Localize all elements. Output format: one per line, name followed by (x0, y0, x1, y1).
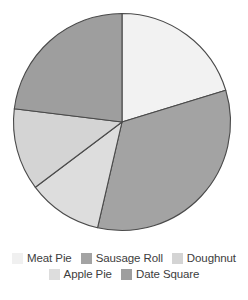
legend-item-doughnut[interactable]: Doughnut (172, 252, 236, 265)
pie-slices-group (14, 13, 231, 230)
legend-swatch-sausage-roll (81, 253, 92, 264)
legend-label-date-square: Date Square (136, 268, 199, 281)
legend-swatch-meat-pie (12, 253, 23, 264)
legend-swatch-apple-pie (49, 269, 60, 280)
legend-label-doughnut: Doughnut (187, 252, 236, 265)
pie-svg (0, 0, 248, 248)
legend-item-sausage-roll[interactable]: Sausage Roll (81, 252, 163, 265)
legend-label-sausage-roll: Sausage Roll (96, 252, 163, 265)
pie-plot-area (0, 0, 248, 248)
pie-slice-date-square[interactable] (14, 14, 122, 123)
pie-chart-figure: Meat PieSausage RollDoughnutApple PieDat… (0, 0, 248, 300)
chart-legend: Meat PieSausage RollDoughnutApple PieDat… (0, 252, 248, 281)
legend-row: Meat PieSausage RollDoughnut (12, 252, 236, 265)
legend-label-apple-pie: Apple Pie (64, 268, 112, 281)
legend-label-meat-pie: Meat Pie (27, 252, 72, 265)
legend-item-date-square[interactable]: Date Square (121, 268, 199, 281)
legend-swatch-doughnut (172, 253, 183, 264)
legend-item-meat-pie[interactable]: Meat Pie (12, 252, 72, 265)
legend-swatch-date-square (121, 269, 132, 280)
legend-row: Apple PieDate Square (49, 268, 200, 281)
legend-item-apple-pie[interactable]: Apple Pie (49, 268, 112, 281)
